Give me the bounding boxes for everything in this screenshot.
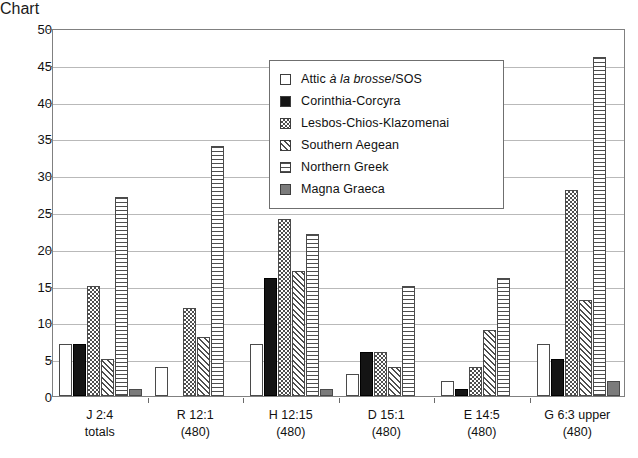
bar <box>115 197 128 396</box>
bar <box>320 389 333 396</box>
y-axis-tick-label: 5 <box>8 354 52 367</box>
y-axis-tick-label: 25 <box>8 207 52 220</box>
bar <box>346 374 359 396</box>
y-axis: 05101520253035404550 <box>0 0 52 458</box>
legend-item: Southern Aegean <box>280 134 493 156</box>
bar <box>129 389 142 396</box>
bar <box>374 352 387 396</box>
bar <box>537 344 550 396</box>
bar <box>183 308 196 396</box>
legend-item: Magna Graeca <box>280 178 493 200</box>
legend-swatch-icon <box>280 74 291 85</box>
legend-item: Lesbos-Chios-Klazomenai <box>280 112 493 134</box>
x-axis-tick-mark <box>434 398 435 403</box>
bar <box>360 352 373 396</box>
y-axis-tick-label: 50 <box>8 23 52 36</box>
bar <box>483 330 496 396</box>
x-axis: J 2:4totalsR 12:1(480)H 12:15(480)D 15:1… <box>52 398 625 458</box>
y-axis-tick-label: 45 <box>8 60 52 73</box>
legend-swatch-icon <box>280 184 291 195</box>
bar <box>101 359 114 396</box>
bar <box>87 286 100 396</box>
chart-legend: Attic à la brosse/SOSCorinthia-CorcyraLe… <box>269 60 504 209</box>
legend-item: Corinthia-Corcyra <box>280 90 493 112</box>
y-axis-tick-label: 40 <box>8 97 52 110</box>
bar <box>306 234 319 396</box>
y-axis-tick-label: 15 <box>8 281 52 294</box>
bar <box>197 337 210 396</box>
bar <box>402 286 415 396</box>
x-axis-tick-mark <box>339 398 340 403</box>
legend-item-label: Corinthia-Corcyra <box>301 94 401 108</box>
bar <box>469 367 482 396</box>
y-axis-tick-label: 20 <box>8 244 52 257</box>
bar-group <box>531 30 627 396</box>
bar <box>388 367 401 396</box>
legend-swatch-icon <box>280 162 291 173</box>
x-axis-tick-label: H 12:15(480) <box>243 407 339 441</box>
bar <box>579 300 592 396</box>
legend-item-label: Magna Graeca <box>301 182 385 196</box>
bar <box>551 359 564 396</box>
bar-group <box>53 30 149 396</box>
x-axis-tick-mark <box>243 398 244 403</box>
x-axis-tick-mark <box>530 398 531 403</box>
x-axis-tick-label: D 15:1(480) <box>339 407 435 441</box>
bar <box>292 271 305 396</box>
y-axis-tick-label: 0 <box>8 391 52 404</box>
bar <box>593 57 606 396</box>
legend-item-label: Southern Aegean <box>301 138 399 152</box>
bar <box>441 381 454 396</box>
bar-group <box>149 30 245 396</box>
bar <box>278 219 291 396</box>
bar <box>250 344 263 396</box>
bar <box>497 278 510 396</box>
legend-swatch-icon <box>280 118 291 129</box>
legend-item: Northern Greek <box>280 156 493 178</box>
bar <box>455 389 468 396</box>
x-axis-tick-label: R 12:1(480) <box>148 407 244 441</box>
legend-item: Attic à la brosse/SOS <box>280 68 493 90</box>
bar <box>155 367 168 396</box>
x-axis-tick-mark <box>148 398 149 403</box>
plot-area: Attic à la brosse/SOSCorinthia-CorcyraLe… <box>52 29 625 397</box>
y-axis-tick-label: 35 <box>8 133 52 146</box>
bar <box>565 190 578 396</box>
x-axis-tick-label: G 6:3 upper(480) <box>530 407 626 441</box>
bar <box>264 278 277 396</box>
bar <box>607 381 620 396</box>
legend-swatch-icon <box>280 96 291 107</box>
x-axis-tick-label: E 14:5(480) <box>434 407 530 441</box>
legend-item-label: Northern Greek <box>301 160 389 174</box>
x-axis-tick-label: J 2:4totals <box>52 407 148 441</box>
legend-item-label: Lesbos-Chios-Klazomenai <box>301 116 449 130</box>
y-axis-tick-label: 10 <box>8 317 52 330</box>
legend-item-label: Attic à la brosse/SOS <box>301 72 422 86</box>
bar <box>73 344 86 396</box>
legend-swatch-icon <box>280 140 291 151</box>
bar-chart: 05101520253035404550 Attic à la brosse/S… <box>0 0 638 458</box>
bar <box>59 344 72 396</box>
y-axis-tick-label: 30 <box>8 170 52 183</box>
bar <box>211 146 224 396</box>
